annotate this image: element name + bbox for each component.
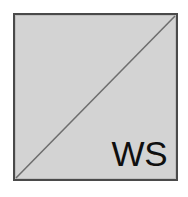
square-shape: WS — [13, 13, 178, 181]
figure-canvas: WS — [0, 0, 188, 197]
figure-label-ws: WS — [112, 136, 167, 171]
